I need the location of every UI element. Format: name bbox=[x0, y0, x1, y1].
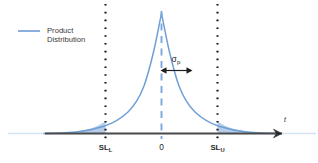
sigma-arrowhead-left bbox=[161, 67, 167, 73]
spec-lower-subscript: L bbox=[109, 147, 113, 153]
legend-entry-label-line1: Product bbox=[47, 26, 73, 35]
sigma-p-annotation: σp bbox=[172, 54, 181, 65]
sigma-subscript: p bbox=[177, 58, 180, 65]
spec-upper-text: SL bbox=[210, 143, 220, 152]
normal-distribution-figure: ProductDistribution σp t SLL 0 SLU bbox=[0, 0, 318, 163]
tick-label-spec-limit-lower: SLL bbox=[99, 143, 113, 153]
distribution-plot bbox=[0, 0, 318, 163]
legend-entry-label: ProductDistribution bbox=[47, 26, 85, 44]
sigma-arrowhead-right bbox=[187, 67, 193, 73]
spec-lower-text: SL bbox=[99, 143, 109, 152]
axis-label-t: t bbox=[284, 116, 286, 123]
spec-upper-subscript: U bbox=[220, 147, 224, 153]
tick-label-center-zero: 0 bbox=[159, 142, 164, 152]
tick-label-spec-limit-upper: SLU bbox=[210, 143, 224, 153]
legend-entry-label-line2: Distribution bbox=[47, 35, 85, 44]
legend: ProductDistribution bbox=[18, 26, 85, 44]
legend-line-swatch-icon bbox=[18, 26, 40, 35]
